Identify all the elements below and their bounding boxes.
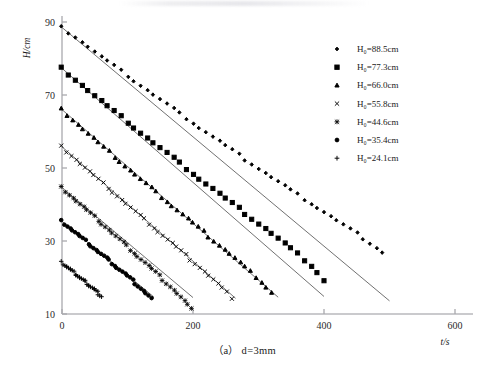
square-marker [250,217,254,221]
triangle-marker [80,127,84,131]
square-marker [112,108,116,112]
square-marker [264,226,268,230]
asterisk-marker [149,266,154,271]
diamond-marker [218,139,221,143]
diamond-marker [127,75,130,79]
diamond-marker [60,24,63,28]
square-marker [151,141,155,145]
square-marker [237,205,241,209]
asterisk-marker [99,222,104,227]
square-marker [283,241,287,245]
square-marker [172,155,176,159]
square-marker [165,150,169,154]
square-marker [105,104,109,108]
triangle-marker [260,281,264,285]
diamond-marker [120,68,123,72]
x-tick-label: 0 [60,320,65,331]
diamond-marker [151,93,154,97]
cross-marker [230,297,234,301]
diamond-marker [322,210,325,214]
diamond-marker [113,63,116,67]
triangle-marker [169,204,173,208]
asterisk-marker [107,228,112,233]
square-marker [139,131,143,135]
y-tick-label: 30 [45,236,55,247]
diamond-marker [296,192,299,196]
diamond-marker [349,227,352,231]
triangle-marker [202,229,206,233]
square-marker [243,212,247,216]
diamond-marker [315,206,318,210]
asterisk-marker [103,225,108,230]
legend-label: H₀=77.3cm [357,62,398,72]
asterisk-marker [67,193,72,198]
diamond-marker [375,246,378,250]
cross-marker [174,245,178,249]
cross-marker [120,198,124,202]
asterisk-marker [168,285,173,290]
y-tick-label: 10 [45,309,55,320]
legend-item: H₀=35.4cm [335,135,398,145]
cross-marker [102,180,106,184]
cross-marker [211,277,215,281]
triangle-marker [65,114,69,118]
diamond-marker [238,152,241,156]
triangle-marker [270,291,274,295]
triangle-marker [264,285,268,289]
diamond-marker [158,97,161,101]
circle-marker [131,278,135,282]
legend-item: H₀=55.8cm [335,99,399,109]
chart-figure: 10305070900200400600H/cmt/s H₀=88.5cmH₀=… [0,0,489,365]
asterisk-marker [59,184,64,189]
diamond-marker [284,184,287,188]
cross-marker [88,169,92,173]
circle-marker [84,238,88,242]
square-marker [158,146,162,150]
legend-label: H₀=35.4cm [357,135,398,145]
asterisk-marker [174,291,179,296]
legend-label: H₀=44.6cm [357,117,398,127]
cross-marker [75,158,79,162]
figure-caption: （a） d=3mm [0,342,489,357]
cross-marker [171,241,175,245]
triangle-marker [71,118,75,122]
diamond-marker [381,251,384,255]
triangle-marker [217,243,221,247]
square-marker [59,65,63,69]
diamond-marker [211,135,214,139]
square-marker [80,83,84,87]
asterisk-marker [335,119,340,124]
diamond-marker [93,50,96,54]
square-marker [177,160,181,164]
fit-line [62,27,390,300]
triangle-marker [165,200,169,204]
square-marker [204,182,208,186]
asterisk-marker [124,243,129,248]
triangle-marker [196,224,200,228]
cross-marker [142,216,146,220]
square-marker [276,236,280,240]
asterisk-marker [113,234,118,239]
diamond-marker [173,106,176,110]
square-marker [315,271,319,275]
data-points [59,144,234,301]
diamond-marker [277,179,280,183]
legend-label: H₀=55.8cm [357,99,398,109]
asterisk-marker [88,210,93,215]
diamond-marker [250,163,253,167]
x-tick-label: 200 [186,320,201,331]
triangle-marker [223,248,227,252]
asterisk-marker [135,254,140,259]
cross-marker [110,191,114,195]
triangle-marker [123,164,127,168]
square-marker [269,231,273,235]
diamond-marker [224,143,227,147]
asterisk-marker [157,272,162,277]
asterisk-marker [179,295,184,300]
series-4 [59,144,235,301]
series-6 [59,218,153,300]
asterisk-marker [183,298,188,303]
diamond-marker [185,117,188,121]
diamond-marker [269,175,272,179]
diamond-marker [356,231,359,235]
